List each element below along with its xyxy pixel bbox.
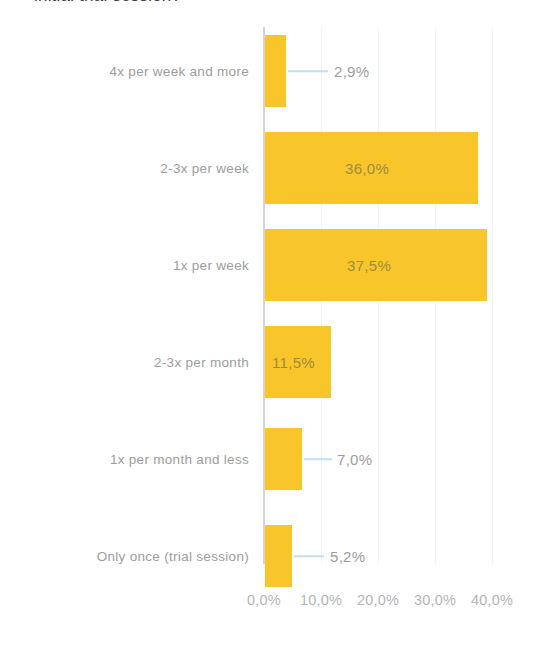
tick-label-30: 30,0%: [414, 592, 456, 608]
tick-label-10: 10,0%: [300, 592, 342, 608]
value-label: 11,5%: [272, 354, 315, 371]
value-label: 5,2%: [330, 548, 365, 565]
bar-row: 4x per week and more 2,9%: [0, 27, 551, 115]
leader-line: [294, 555, 324, 557]
bar-chart: initial trial session? 4x per week and m…: [0, 0, 551, 645]
tick-label-0: 0,0%: [247, 592, 281, 608]
bar-row: 1x per week 37,5%: [0, 221, 551, 309]
bar-segment[interactable]: [265, 525, 292, 587]
bar-segment[interactable]: [265, 428, 302, 490]
category-label: 1x per month and less: [110, 452, 249, 467]
value-label: 2,9%: [334, 63, 369, 80]
bar-row: 2-3x per month 11,5%: [0, 318, 551, 406]
bar-row: Only once (trial session) 5,2%: [0, 512, 551, 600]
value-label: 37,5%: [347, 257, 391, 274]
bar-row: 2-3x per week 36,0%: [0, 124, 551, 212]
category-label: Only once (trial session): [97, 549, 249, 564]
leader-line: [304, 458, 332, 460]
category-label: 2-3x per month: [154, 355, 249, 370]
bar-segment[interactable]: [265, 35, 286, 107]
leader-line: [288, 70, 328, 72]
category-label: 2-3x per week: [160, 161, 249, 176]
tick-label-40: 40,0%: [471, 592, 513, 608]
chart-title: initial trial session?: [34, 0, 181, 6]
tick-label-20: 20,0%: [357, 592, 399, 608]
category-label: 1x per week: [173, 258, 249, 273]
value-label: 36,0%: [345, 160, 389, 177]
x-axis-tick-labels: 0,0% 10,0% 20,0% 30,0% 40,0%: [0, 592, 551, 618]
bar-row: 1x per month and less 7,0%: [0, 415, 551, 503]
value-label: 7,0%: [337, 451, 372, 468]
plot-area: 4x per week and more 2,9% 2-3x per week …: [0, 27, 551, 582]
category-label: 4x per week and more: [109, 64, 249, 79]
